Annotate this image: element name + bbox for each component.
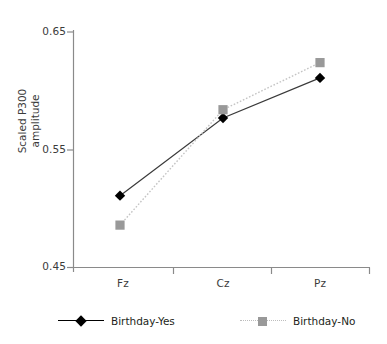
data-point-pz-birthday-yes [315,73,325,83]
legend-label-birthday-no: Birthday-No [293,315,355,327]
diamond-icon [77,317,85,325]
square-icon [258,317,267,326]
plot-area [0,0,387,344]
data-point-cz-birthday-yes [218,113,228,123]
series-line-birthday-yes [120,78,320,196]
data-point-cz-birthday-no [218,105,227,114]
data-point-fz-birthday-no [115,221,124,230]
p300-amplitude-line-chart: Scaled P300 amplitude 0.65 0.55 0.45 Fz … [0,0,387,344]
data-point-pz-birthday-no [315,58,324,67]
legend-item-birthday-no[interactable]: Birthday-No [240,313,355,329]
legend-sample-birthday-no [240,314,286,328]
series-layer [115,58,325,230]
legend-item-birthday-yes[interactable]: Birthday-Yes [58,313,175,329]
data-point-fz-birthday-yes [115,190,125,200]
legend-sample-birthday-yes [58,314,104,328]
legend-label-birthday-yes: Birthday-Yes [111,315,175,327]
series-line-birthday-no [120,63,320,225]
